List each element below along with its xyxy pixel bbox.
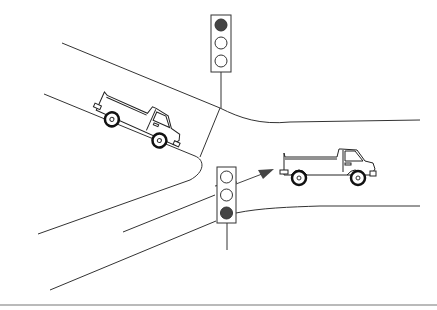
yellow-light-off-icon: [221, 189, 233, 201]
road-edge-right-bottom: [236, 206, 420, 213]
green-light-on-icon: [221, 207, 233, 219]
red-light-off-icon: [221, 171, 233, 183]
stop-line: [200, 108, 220, 157]
yellow-light-off-icon: [215, 37, 227, 49]
pickup-truck-right-icon: [280, 149, 376, 185]
traffic-light-upper: [211, 15, 231, 108]
intersection-diagram: [0, 0, 437, 310]
red-light-on-icon: [215, 19, 227, 31]
road-edge-bottom: [50, 221, 216, 290]
traffic-light-lower: [217, 167, 236, 250]
direction-arrow-icon: [236, 169, 274, 184]
green-light-off-icon: [215, 55, 227, 67]
pickup-truck-left-icon: [89, 85, 189, 155]
lane-line: [123, 195, 215, 232]
